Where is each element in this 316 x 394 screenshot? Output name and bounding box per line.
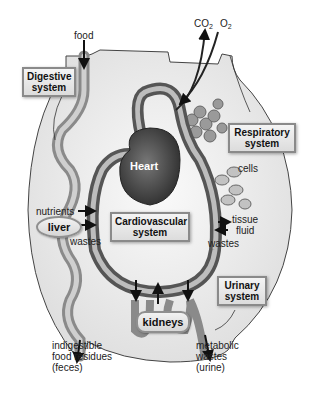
heart-label: Heart [130, 160, 158, 172]
organ-system-diagram [0, 0, 316, 394]
wastes-right-label: wastes [208, 238, 239, 249]
kidneys-label: kidneys [136, 311, 190, 333]
cells-label: cells [238, 163, 258, 174]
tissue-fluid-label: tissuefluid [232, 214, 258, 236]
digestive-system-label: Digestive system [22, 67, 76, 97]
nutrients-label: nutrients [36, 206, 74, 217]
cardiovascular-system-label: Cardiovascular system [110, 212, 190, 242]
respiratory-system-label: Respiratory system [228, 123, 296, 153]
co2-label: CO2 [194, 18, 213, 32]
urine-label: metabolicwastes(urine) [196, 340, 239, 373]
wastes-left-label: wastes [70, 236, 101, 247]
urinary-system-label: Urinary system [217, 276, 267, 306]
feces-label: indigestiblefood residues(feces) [52, 340, 112, 373]
o2-label: O2 [220, 18, 232, 32]
food-label: food [74, 30, 93, 41]
liver-label: liver [36, 216, 82, 238]
